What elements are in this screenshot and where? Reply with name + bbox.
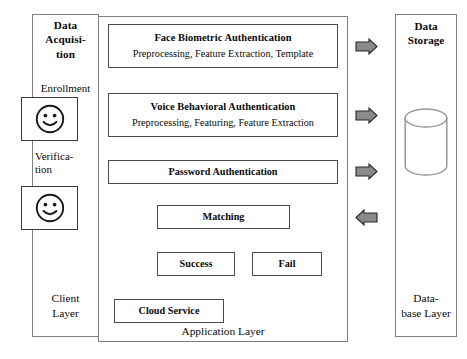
success-box: Success	[157, 252, 235, 276]
smiley-face-icon	[34, 192, 66, 224]
face-biometric-authentication-box: Face Biometric Authentication Preprocess…	[108, 24, 338, 68]
smiley-face-icon	[34, 103, 66, 135]
data-acquisition-title: Data Acquisi- tion	[33, 18, 98, 61]
enrollment-label: Enrollment	[33, 82, 98, 94]
cloud-service-box: Cloud Service	[114, 299, 224, 323]
voice-behavioral-title: Voice Behavioral Authentication	[151, 101, 296, 113]
fail-box: Fail	[252, 252, 322, 276]
matching-box: Matching	[157, 205, 290, 229]
password-authentication-title: Password Authentication	[169, 166, 278, 178]
application-layer-label: Application Layer	[98, 325, 348, 337]
database-layer-label: Data- base Layer	[395, 291, 457, 320]
verification-label: Verifica- tion	[35, 150, 99, 177]
arrow-face-to-storage	[356, 39, 377, 54]
cloud-service-title: Cloud Service	[139, 305, 200, 317]
data-storage-title: Data Storage	[395, 19, 457, 48]
arrow-voice-to-storage	[356, 108, 377, 123]
success-title: Success	[180, 258, 213, 270]
fail-title: Fail	[279, 258, 296, 270]
arrow-storage-to-matching	[356, 210, 377, 225]
arrow-password-to-storage	[356, 164, 377, 179]
database-cylinder-icon	[404, 108, 448, 176]
diagram-canvas: Data Acquisi- tion Enrollment Verifica- …	[0, 0, 467, 359]
enrollment-face-box	[21, 97, 78, 141]
client-layer-label: Client Layer	[33, 291, 98, 320]
face-biometric-subtitle: Preprocessing, Feature Extraction, Templ…	[133, 48, 313, 60]
password-authentication-box: Password Authentication	[108, 160, 338, 184]
face-biometric-title: Face Biometric Authentication	[154, 32, 291, 44]
voice-behavioral-authentication-box: Voice Behavioral Authentication Preproce…	[108, 93, 338, 137]
matching-title: Matching	[203, 211, 245, 223]
voice-behavioral-subtitle: Preprocessing, Featuring, Feature Extrac…	[132, 117, 314, 129]
verification-face-box	[21, 186, 78, 230]
